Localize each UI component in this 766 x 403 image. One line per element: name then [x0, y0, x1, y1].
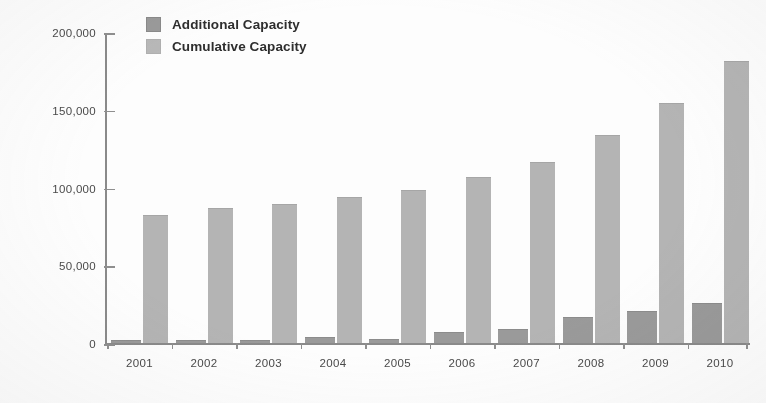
y-axis-tick-label: 100,000 — [52, 183, 96, 195]
bar-group: 2008 — [557, 32, 622, 343]
bar-group: 2006 — [428, 32, 493, 343]
legend-label-additional: Additional Capacity — [172, 17, 300, 32]
x-axis-tick-label: 2007 — [513, 357, 540, 369]
bar-additional-capacity[interactable] — [498, 329, 528, 343]
bar-group: 2007 — [492, 32, 557, 343]
y-axis-tick-label: 50,000 — [59, 260, 96, 272]
bar-group: 2003 — [234, 32, 299, 343]
x-axis-tick-label: 2002 — [191, 357, 218, 369]
bar-cumulative-capacity[interactable] — [143, 215, 168, 344]
x-axis-tick — [688, 343, 690, 349]
x-axis-tick-label: 2001 — [126, 357, 153, 369]
bar-group: 2004 — [299, 32, 364, 343]
bar-cumulative-capacity[interactable] — [208, 208, 233, 343]
y-axis-tick-labels: 050,000100,000150,000200,000 — [0, 33, 96, 344]
bar-group: 2001 — [105, 32, 170, 343]
x-axis-tick-label: 2008 — [578, 357, 605, 369]
bar-additional-capacity[interactable] — [111, 340, 141, 343]
y-axis-tick — [104, 344, 115, 346]
bar-additional-capacity[interactable] — [369, 339, 399, 343]
bar-additional-capacity[interactable] — [434, 332, 464, 343]
x-axis-tick-label: 2003 — [255, 357, 282, 369]
legend-item-additional-capacity[interactable]: Additional Capacity — [146, 16, 307, 33]
bar-cumulative-capacity[interactable] — [530, 162, 555, 343]
y-axis-tick-label: 200,000 — [52, 27, 96, 39]
bar-cumulative-capacity[interactable] — [272, 204, 297, 343]
x-axis-tick — [365, 343, 367, 349]
x-axis-tick — [746, 343, 748, 349]
bar-cumulative-capacity[interactable] — [337, 197, 362, 343]
x-axis-tick — [236, 343, 238, 349]
bar-additional-capacity[interactable] — [305, 337, 335, 343]
bar-additional-capacity[interactable] — [176, 340, 206, 343]
bar-group: 2005 — [363, 32, 428, 343]
x-axis-tick — [430, 343, 432, 349]
x-axis-tick — [623, 343, 625, 349]
x-axis-tick — [107, 343, 109, 349]
bar-cumulative-capacity[interactable] — [595, 135, 620, 343]
bar-cumulative-capacity[interactable] — [724, 61, 749, 343]
x-axis-tick — [494, 343, 496, 349]
bar-additional-capacity[interactable] — [692, 303, 722, 343]
bar-group: 2002 — [170, 32, 235, 343]
bar-group: 2009 — [621, 32, 686, 343]
y-axis-tick-label: 150,000 — [52, 105, 96, 117]
x-axis-tick-label: 2010 — [707, 357, 734, 369]
bar-additional-capacity[interactable] — [240, 340, 270, 343]
bar-cumulative-capacity[interactable] — [466, 177, 491, 343]
legend-swatch-additional-icon — [146, 17, 161, 32]
x-axis-tick — [301, 343, 303, 349]
chart-figure: Additional Capacity Cumulative Capacity … — [0, 0, 766, 403]
x-axis-line — [105, 343, 750, 345]
bar-cumulative-capacity[interactable] — [401, 190, 426, 343]
bar-group: 2010 — [686, 32, 751, 343]
plot-area: 2001200220032004200520062007200820092010 — [105, 33, 750, 344]
bar-additional-capacity[interactable] — [563, 317, 593, 343]
x-axis-tick-label: 2004 — [320, 357, 347, 369]
bar-cumulative-capacity[interactable] — [659, 103, 684, 343]
y-axis-tick-label: 0 — [89, 338, 96, 350]
x-axis-tick — [559, 343, 561, 349]
x-axis-tick-label: 2006 — [449, 357, 476, 369]
bar-additional-capacity[interactable] — [627, 311, 657, 343]
x-axis-tick — [172, 343, 174, 349]
x-axis-tick-label: 2009 — [642, 357, 669, 369]
x-axis-tick-label: 2005 — [384, 357, 411, 369]
